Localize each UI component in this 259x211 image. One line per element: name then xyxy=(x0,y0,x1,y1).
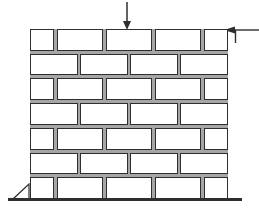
brick xyxy=(155,29,202,51)
brick xyxy=(30,128,54,150)
brick xyxy=(30,177,54,199)
horizontal-load-arrow-icon xyxy=(224,25,259,45)
brick xyxy=(106,177,153,199)
brick-row xyxy=(30,177,228,199)
brick xyxy=(155,128,202,150)
ground-line xyxy=(8,198,242,201)
brick xyxy=(106,29,153,51)
brick xyxy=(30,153,78,175)
brick xyxy=(204,177,228,199)
brick xyxy=(130,153,178,175)
brick-row xyxy=(30,128,228,150)
vertical-load-arrow-icon xyxy=(120,2,134,30)
wall-load-diagram xyxy=(0,0,259,211)
brick xyxy=(155,177,202,199)
brick xyxy=(80,153,128,175)
brick xyxy=(80,103,128,125)
brick xyxy=(30,103,78,125)
brick-row xyxy=(30,54,228,76)
brick xyxy=(130,54,178,76)
brick xyxy=(57,177,104,199)
brick xyxy=(106,78,153,100)
brick xyxy=(155,78,202,100)
brick xyxy=(180,54,228,76)
brick xyxy=(130,103,178,125)
brick xyxy=(30,29,54,51)
brick xyxy=(30,54,78,76)
brick-row xyxy=(30,78,228,100)
brick xyxy=(180,103,228,125)
brick xyxy=(180,153,228,175)
brick xyxy=(204,128,228,150)
brick xyxy=(106,128,153,150)
brick xyxy=(204,78,228,100)
brick xyxy=(204,29,228,51)
brick xyxy=(80,54,128,76)
brick xyxy=(57,29,104,51)
brick xyxy=(30,78,54,100)
brick-row xyxy=(30,153,228,175)
wall xyxy=(30,29,228,199)
brick xyxy=(57,128,104,150)
brick-row xyxy=(30,103,228,125)
brick-row xyxy=(30,29,228,51)
brick xyxy=(57,78,104,100)
